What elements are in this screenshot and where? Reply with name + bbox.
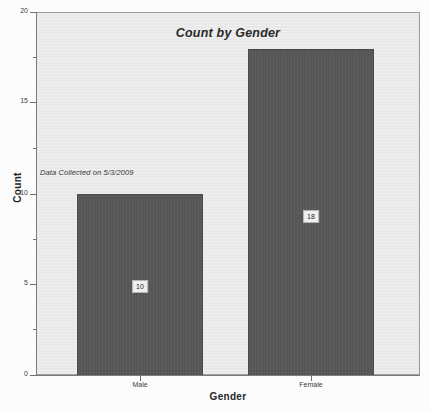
y-tick-5: 5 bbox=[30, 284, 37, 285]
y-minor-tick-2-5 bbox=[33, 329, 37, 330]
y-tick-10: 10 bbox=[30, 194, 37, 195]
chart-title: Count by Gender bbox=[36, 26, 420, 40]
y-tick-20: 20 bbox=[30, 12, 37, 13]
y-tick-0: 0 bbox=[30, 375, 37, 376]
bar-female[interactable]: 18 bbox=[248, 49, 374, 376]
x-tick-label-female: Female bbox=[271, 381, 351, 388]
x-tick-male bbox=[140, 375, 141, 381]
x-axis-title: Gender bbox=[36, 391, 420, 402]
chart-figure: Count by Gender Data Collected on 5/3/20… bbox=[0, 0, 430, 411]
y-tick-label-20: 20 bbox=[20, 7, 28, 14]
bar-value-male: 10 bbox=[132, 280, 148, 293]
bar-male[interactable]: 10 bbox=[77, 194, 203, 376]
y-minor-tick-7-5 bbox=[33, 239, 37, 240]
y-minor-tick-17-5 bbox=[33, 57, 37, 58]
y-tick-15: 15 bbox=[30, 102, 37, 103]
y-minor-tick-12-5 bbox=[33, 148, 37, 149]
chart-annotation: Data Collected on 5/3/2009 bbox=[40, 168, 134, 177]
y-tick-label-15: 15 bbox=[20, 97, 28, 104]
y-tick-label-10: 10 bbox=[20, 189, 28, 196]
y-tick-label-5: 5 bbox=[24, 279, 28, 286]
bar-value-female: 18 bbox=[303, 210, 319, 223]
x-axis-line bbox=[36, 375, 420, 376]
x-tick-female bbox=[311, 375, 312, 381]
x-tick-label-male: Male bbox=[100, 381, 180, 388]
y-axis-title: Count bbox=[12, 158, 23, 218]
y-tick-label-0: 0 bbox=[24, 370, 28, 377]
